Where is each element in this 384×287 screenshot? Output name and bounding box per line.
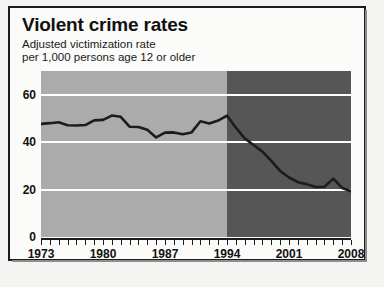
chart-figure: Violent crime rates Adjusted victimizati…	[0, 0, 384, 287]
x-axis-tick-2000	[280, 240, 281, 245]
plot-area	[41, 71, 351, 237]
x-axis-tick-2001	[289, 240, 290, 245]
x-axis-tick-2008	[351, 240, 352, 245]
chart-subtitle: Adjusted victimization rate per 1,000 pe…	[22, 38, 195, 64]
x-axis-tick-1981	[112, 240, 113, 245]
page-title: Violent crime rates	[22, 14, 188, 36]
x-axis-tick-1985	[147, 240, 148, 245]
x-axis-tick-1979	[94, 240, 95, 245]
x-axis-tick-1995	[236, 240, 237, 245]
x-axis-tick-1989	[183, 240, 184, 245]
x-axis-tick-label-1994: 1994	[214, 247, 241, 261]
x-axis-tick-1991	[200, 240, 201, 245]
x-axis-tick-label-1973: 1973	[28, 247, 55, 261]
x-axis-tick-1978	[85, 240, 86, 245]
x-axis-line	[41, 238, 351, 240]
x-axis-tick-2007	[342, 240, 343, 245]
y-axis-tick-label-20: 20	[23, 183, 36, 197]
y-axis: 6040200	[8, 0, 36, 287]
x-axis-tick-1975	[59, 240, 60, 245]
x-axis-tick-1984	[138, 240, 139, 245]
x-axis-tick-1980	[103, 240, 104, 245]
x-axis-tick-1988	[174, 240, 175, 245]
x-axis-tick-1994	[227, 240, 228, 245]
x-axis-tick-1974	[50, 240, 51, 245]
x-axis-tick-2005	[324, 240, 325, 245]
x-axis-tick-2002	[298, 240, 299, 245]
x-axis-tick-1986	[156, 240, 157, 245]
x-axis-tick-2004	[316, 240, 317, 245]
x-axis-tick-label-1980: 1980	[90, 247, 117, 261]
x-axis-tick-label-2001: 2001	[276, 247, 303, 261]
series-violent-crime-rate	[41, 71, 351, 237]
x-axis-tick-1992	[209, 240, 210, 245]
x-axis-tick-2006	[333, 240, 334, 245]
x-axis-tick-1998	[262, 240, 263, 245]
x-axis-tick-1999	[271, 240, 272, 245]
x-axis-tick-label-2008: 2008	[338, 247, 365, 261]
x-axis-tick-1993	[218, 240, 219, 245]
x-axis-tick-1987	[165, 240, 166, 245]
x-axis-tick-1996	[245, 240, 246, 245]
x-axis-tick-1997	[254, 240, 255, 245]
x-axis-tick-2003	[307, 240, 308, 245]
x-axis-tick-1990	[192, 240, 193, 245]
x-axis-tick-1982	[121, 240, 122, 245]
chart-subtitle-line-1: Adjusted victimization rate	[22, 38, 195, 51]
y-axis-tick-label-60: 60	[23, 88, 36, 102]
x-axis-tick-1976	[68, 240, 69, 245]
x-axis-tick-1983	[130, 240, 131, 245]
x-axis-tick-1973	[41, 240, 42, 245]
y-axis-tick-label-0: 0	[29, 230, 36, 244]
y-axis-tick-label-40: 40	[23, 135, 36, 149]
chart-subtitle-line-2: per 1,000 persons age 12 or older	[22, 51, 195, 64]
x-axis-tick-1977	[76, 240, 77, 245]
x-axis-tick-label-1987: 1987	[152, 247, 179, 261]
